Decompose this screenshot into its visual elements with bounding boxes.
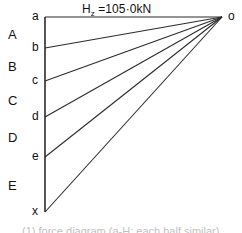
point-label-x: x bbox=[32, 205, 38, 217]
hz-value: =105·0kN bbox=[95, 2, 152, 16]
ray-c-o bbox=[45, 17, 222, 81]
point-label-b: b bbox=[32, 41, 39, 53]
segment-label-c: C bbox=[8, 94, 18, 107]
hz-symbol: H bbox=[82, 2, 91, 16]
hz-title-label: Hz =105·0kN bbox=[82, 3, 151, 18]
pole-label-o: o bbox=[228, 10, 235, 22]
point-label-c: c bbox=[32, 74, 38, 86]
segment-label-e: E bbox=[8, 179, 17, 192]
point-label-a: a bbox=[32, 10, 39, 22]
point-label-e: e bbox=[32, 150, 39, 162]
segment-label-b: B bbox=[8, 60, 17, 73]
figure-caption: (1) force diagram (a-H: each half simila… bbox=[22, 225, 227, 233]
segment-label-a: A bbox=[8, 28, 17, 41]
point-label-d: d bbox=[32, 110, 39, 122]
segment-label-d: D bbox=[8, 131, 18, 144]
ray-e-o bbox=[45, 17, 222, 157]
force-diagram-figure: Hz =105·0kN a b c d e x o A B C D E (1) … bbox=[0, 0, 242, 233]
ray-x-o bbox=[45, 17, 222, 212]
